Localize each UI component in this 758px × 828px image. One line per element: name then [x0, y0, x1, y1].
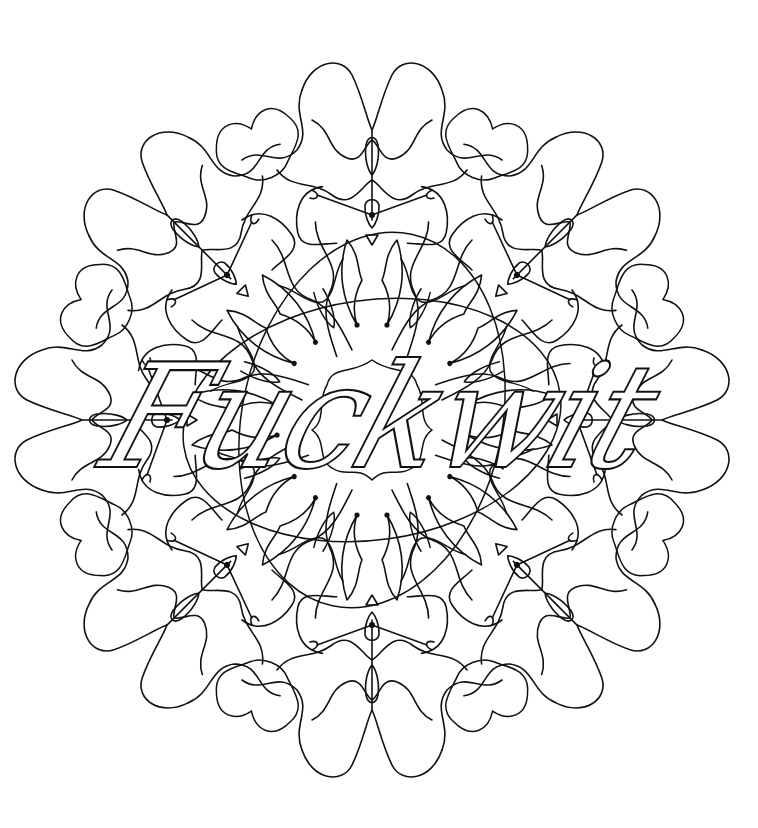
- center-script-text: Fuckwit: [26, 313, 734, 523]
- coloring-page: Fuckwit: [0, 0, 758, 828]
